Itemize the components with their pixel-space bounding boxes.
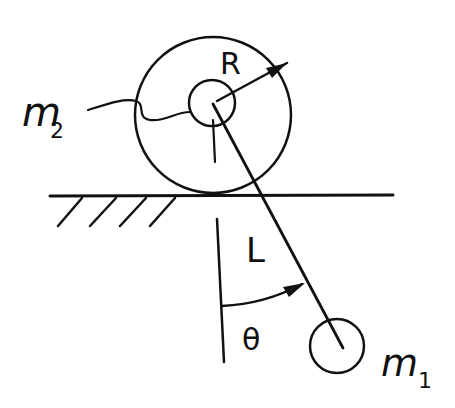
label-m1: m: [381, 341, 418, 385]
ground-hatching: [58, 198, 175, 226]
disk-hub-circle: [189, 80, 235, 126]
disk-outer-circle: [135, 37, 291, 193]
label-radius: R: [220, 46, 241, 81]
label-length: L: [246, 230, 265, 270]
theta-arrowhead-icon: [283, 283, 305, 297]
label-theta: θ: [242, 322, 260, 357]
m2-leader-line: [88, 100, 190, 120]
pendulum-disk-diagram: m 2 R L θ m 1: [0, 0, 455, 408]
label-m1-subscript: 1: [418, 368, 432, 393]
ground-line: [50, 195, 393, 196]
label-m2-subscript: 2: [50, 118, 64, 143]
pendulum-bob: [310, 319, 364, 373]
radius-arrowhead-icon: [266, 63, 287, 78]
vertical-reference-line: [217, 219, 224, 362]
pendulum-rod: [213, 104, 343, 348]
